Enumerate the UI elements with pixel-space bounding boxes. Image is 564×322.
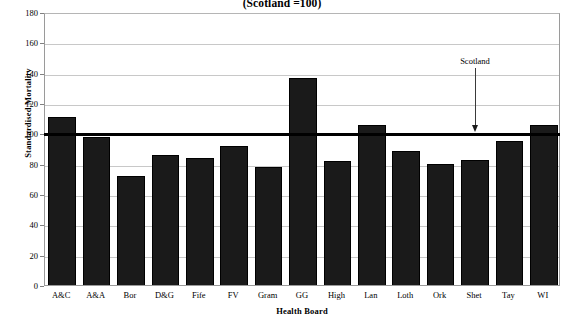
x-axis-tick-label: Gram: [250, 291, 284, 300]
x-axis-tick-label: A&A: [78, 291, 112, 300]
scotland-annotation-arrowhead-icon: [472, 125, 478, 132]
bar[interactable]: [358, 125, 386, 286]
bar[interactable]: [117, 176, 145, 286]
bar[interactable]: [461, 160, 489, 286]
x-axis-tick-label: D&G: [147, 291, 181, 300]
y-axis-tick-mark: [40, 286, 44, 287]
x-axis-tick-label: Loth: [388, 291, 422, 300]
scotland-annotation-label: Scotland: [445, 56, 505, 66]
x-axis-tick-label: Fife: [182, 291, 216, 300]
x-axis-tick-label: Tay: [491, 291, 525, 300]
chart-container: (Scotland =100) Standardised Mortality 1…: [0, 0, 564, 322]
y-axis-tick-label: 40: [8, 221, 38, 230]
chart-title: (Scotland =100): [0, 0, 564, 9]
gridline: [45, 44, 559, 45]
y-axis-tick-label: 100: [8, 130, 38, 139]
scotland-annotation-arrow-icon: [475, 68, 476, 127]
bar[interactable]: [530, 125, 558, 286]
bar[interactable]: [427, 164, 455, 286]
gridline: [45, 75, 559, 76]
x-axis-tick-label: GG: [285, 291, 319, 300]
x-axis-tick-label: A&C: [44, 291, 78, 300]
x-axis-title: Health Board: [44, 306, 560, 316]
y-axis-tick-label: 20: [8, 252, 38, 261]
x-axis-tick-label: Shet: [457, 291, 491, 300]
x-axis-tick-label: High: [319, 291, 353, 300]
bar[interactable]: [324, 161, 352, 286]
bar[interactable]: [496, 141, 524, 286]
bar[interactable]: [220, 146, 248, 286]
y-axis-tick-label: 120: [8, 100, 38, 109]
bar[interactable]: [152, 155, 180, 286]
y-axis-tick-label: 160: [8, 39, 38, 48]
bar[interactable]: [255, 167, 283, 286]
x-axis-tick-label: WI: [526, 291, 560, 300]
y-axis-tick-label: 0: [8, 282, 38, 291]
plot-area: [44, 13, 560, 286]
bar[interactable]: [392, 151, 420, 287]
y-axis-tick-label: 60: [8, 191, 38, 200]
y-axis-tick-label: 180: [8, 9, 38, 18]
x-axis-tick-label: Lan: [354, 291, 388, 300]
x-axis-tick-label: FV: [216, 291, 250, 300]
x-axis-tick-label: Bor: [113, 291, 147, 300]
x-axis-tick-label: Ork: [422, 291, 456, 300]
bar[interactable]: [83, 137, 111, 286]
bar[interactable]: [289, 78, 317, 286]
bar[interactable]: [186, 158, 214, 286]
y-axis-tick-label: 140: [8, 70, 38, 79]
y-axis-tick-label: 80: [8, 161, 38, 170]
bar[interactable]: [48, 117, 76, 286]
scotland-reference-line: [44, 133, 560, 136]
